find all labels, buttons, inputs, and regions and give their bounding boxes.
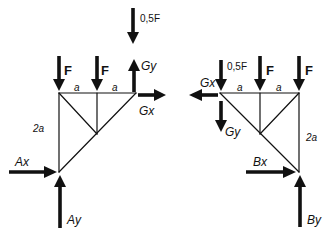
- ax-label: Ax: [14, 155, 30, 169]
- left-dim-a2: a: [112, 82, 118, 93]
- by-label: By: [307, 213, 322, 227]
- bx-label: Bx: [253, 155, 268, 169]
- right-dim-a1: a: [237, 82, 243, 93]
- right-half-f-label: 0,5F: [227, 61, 247, 72]
- left-half-f-label: 0,5F: [140, 13, 160, 24]
- left-f1-label: F: [64, 63, 72, 78]
- left-dim-2a: 2a: [32, 123, 45, 134]
- left-dim-a1: a: [74, 82, 80, 93]
- right-f2-arrow-icon: [293, 56, 305, 91]
- left-gy-arrow-icon: [128, 59, 140, 92]
- left-gx-label: Gx: [139, 104, 155, 118]
- right-inner-diagonal: [260, 93, 299, 134]
- left-f2-label: F: [101, 63, 109, 78]
- right-gx-arrow-icon: [189, 89, 218, 101]
- truss-free-body-diagram: 0,5F F F Gy Gx a a 2a Ax Ay: [0, 0, 327, 246]
- right-f1-arrow-icon: [254, 56, 266, 91]
- left-truss: [59, 93, 136, 172]
- right-f2-label: F: [305, 63, 313, 78]
- left-inner-diagonal: [59, 93, 97, 134]
- right-gy-label: Gy: [225, 125, 241, 139]
- right-half-f-arrow-icon: [215, 60, 227, 91]
- right-gx-label: Gx: [200, 76, 216, 90]
- left-gy-label: Gy: [141, 59, 157, 73]
- right-dim-2a: 2a: [305, 132, 318, 143]
- right-f1-label: F: [266, 63, 274, 78]
- ay-arrow-icon: [54, 175, 66, 228]
- left-half-f-arrow-icon: [127, 8, 139, 44]
- left-gx-arrow-icon: [138, 89, 166, 101]
- right-dim-a2: a: [276, 82, 282, 93]
- ay-label: Ay: [66, 213, 82, 227]
- by-arrow-icon: [294, 175, 306, 227]
